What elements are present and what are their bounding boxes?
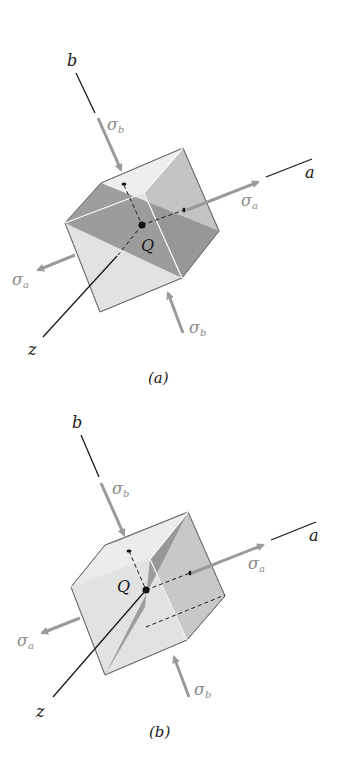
a-axis-tick (183, 208, 186, 213)
sigma-a-left-label: σa (17, 631, 34, 651)
figure-canvas: b a Q z (0, 0, 341, 757)
b-axis-line (81, 435, 99, 477)
z-axis-label: z (27, 340, 37, 359)
point-q-label-a: Q (141, 236, 154, 255)
sigma-b-top-label: σb (107, 115, 124, 135)
b-axis-label: b (67, 51, 77, 70)
sigma-a-left-label: σa (12, 270, 29, 290)
sigma-a-right-label: σa (241, 191, 258, 211)
point-q-a (139, 222, 146, 229)
sigma-b-bottom-arrow (168, 293, 183, 333)
panel-b: b a Q z (17, 413, 319, 741)
b-axis-tick (122, 183, 127, 186)
sigma-b-bottom-arrow (174, 657, 189, 697)
sigma-a-left-arrow (42, 618, 80, 633)
b-axis-line (76, 73, 95, 113)
caption-b: (b) (149, 723, 170, 741)
a-axis-tick (189, 571, 192, 576)
point-q-label-b: Q (117, 577, 130, 596)
a-axis-label: a (305, 163, 315, 182)
caption-a: (a) (148, 369, 169, 387)
a-axis-label: a (309, 526, 319, 545)
sigma-a-right-label: σa (248, 554, 265, 574)
sigma-b-bottom-label: σb (189, 318, 206, 338)
z-axis-label: z (35, 702, 45, 721)
panel-a: b a Q z (12, 51, 315, 387)
b-axis-label: b (72, 413, 82, 432)
sigma-a-left-arrow (38, 255, 75, 270)
sigma-b-bottom-label: σb (194, 680, 211, 700)
sigma-b-top-label: σb (112, 479, 129, 499)
b-axis-tick (127, 550, 132, 553)
